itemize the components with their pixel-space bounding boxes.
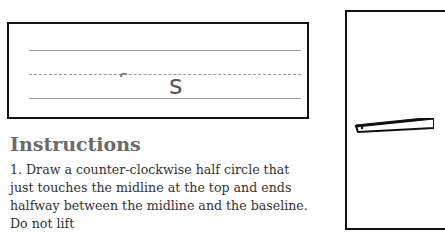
full-letter-s: s [169, 72, 183, 98]
pencil-icon [354, 118, 434, 158]
handwriting-practice-box: s s [7, 22, 309, 119]
partial-letter-s: s [119, 68, 128, 86]
top-line [29, 50, 301, 51]
baseline [29, 98, 301, 99]
instruction-step-1: 1. Draw a counter-clockwise half circle … [10, 161, 310, 233]
midline [29, 74, 301, 75]
instructions-heading: Instructions [10, 133, 141, 155]
